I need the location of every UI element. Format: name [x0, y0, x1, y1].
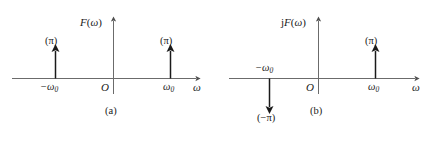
- impulse-weight-label-neg-omega0: (π): [45, 36, 57, 47]
- xtick-neg-base: −ω: [255, 62, 270, 73]
- impulse-weight-label-pos-omega0: (π): [160, 36, 172, 47]
- xtick-pos-subscript: 0: [170, 85, 174, 94]
- xtick-label-pos-omega0: ω0: [368, 82, 379, 94]
- xtick-label-neg-omega0: −ω0: [40, 82, 58, 94]
- xtick-label-neg-omega0: −ω0: [255, 63, 273, 75]
- x-axis-label: ω: [412, 82, 420, 93]
- origin-label: O: [101, 82, 109, 93]
- panel-b: jF(ω) ω O −ω0 ω0 (−π) (π) (b): [219, 0, 438, 141]
- xtick-neg-subscript: 0: [270, 66, 274, 75]
- xtick-pos-subscript: 0: [375, 85, 379, 94]
- xtick-label-pos-omega0: ω0: [163, 82, 174, 94]
- impulse-weight-label-neg-omega0: (−π): [257, 113, 275, 124]
- panel-caption-a: (a): [105, 106, 117, 117]
- xtick-neg-base: −ω: [40, 81, 55, 92]
- panel-b-graphics: [219, 0, 438, 141]
- origin-label: O: [306, 82, 314, 93]
- y-axis-label: jF(ω): [281, 17, 306, 28]
- y-axis-label-func: F: [80, 16, 87, 28]
- y-axis-label-func: F: [284, 16, 291, 28]
- panel-a: F(ω) ω O −ω0 ω0 (π) (π) (a): [0, 0, 219, 141]
- x-axis-label: ω: [193, 82, 201, 93]
- y-axis-label: F(ω): [80, 17, 102, 28]
- panel-a-graphics: [0, 0, 219, 141]
- panel-caption-b: (b): [310, 106, 322, 117]
- xtick-neg-subscript: 0: [55, 85, 59, 94]
- figure-root: F(ω) ω O −ω0 ω0 (π) (π) (a): [0, 0, 438, 141]
- impulse-weight-label-pos-omega0: (π): [365, 36, 377, 47]
